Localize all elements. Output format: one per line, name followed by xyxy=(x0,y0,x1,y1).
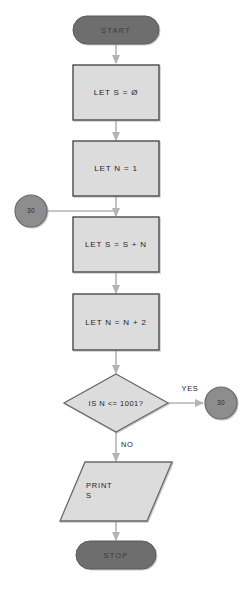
node-shape-connector-in[interactable] xyxy=(15,195,47,227)
flowchart-svg xyxy=(0,0,249,589)
node-shape-let-n-n2[interactable] xyxy=(73,294,159,350)
node-shape-print[interactable] xyxy=(60,462,172,521)
node-shape-let-n-1[interactable] xyxy=(73,141,159,196)
node-shape-let-s-0[interactable] xyxy=(73,65,159,120)
node-shape-stop[interactable] xyxy=(76,541,156,569)
node-shape-start[interactable] xyxy=(73,16,159,44)
node-shape-connector-out[interactable] xyxy=(205,387,237,419)
node-shape-decision[interactable] xyxy=(64,374,168,432)
flowchart-canvas: START LET S = Ø LET N = 1 30 LET S = S +… xyxy=(0,0,249,589)
node-shape-let-s-sn[interactable] xyxy=(73,217,159,272)
